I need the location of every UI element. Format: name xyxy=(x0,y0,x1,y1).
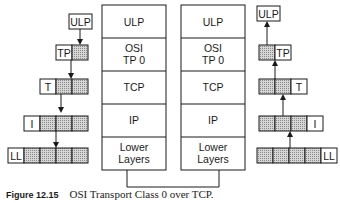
layer-osi-right: OSI xyxy=(204,42,222,54)
layer-ulp-right: ULP xyxy=(203,16,223,28)
svg-text:I: I xyxy=(314,118,317,130)
i-pdu-left: I xyxy=(24,116,88,131)
t-pdu-left: T xyxy=(40,79,88,94)
svg-text:LL: LL xyxy=(323,150,335,162)
layer-lower-left: Lower xyxy=(120,141,149,153)
i-pdu-right: I xyxy=(259,116,323,131)
ulp-header-right: ULP xyxy=(257,6,280,21)
svg-text:TP: TP xyxy=(276,47,289,59)
layer-ip-left: IP xyxy=(129,114,139,126)
tp-pdu-right: TP xyxy=(259,45,291,60)
figure-label: Figure 12.15 xyxy=(6,190,59,200)
svg-text:TP 0: TP 0 xyxy=(123,54,145,66)
svg-text:Layers: Layers xyxy=(197,153,229,165)
layer-ip-right: IP xyxy=(208,114,218,126)
figure-caption-text: OSI Transport Class 0 over TCP. xyxy=(69,188,213,200)
tp-pdu-left: TP xyxy=(56,45,88,60)
decapsulation-diagram: ULP TP T I LL xyxy=(257,6,337,163)
physical-link xyxy=(127,170,219,187)
ll-frame-left: LL xyxy=(8,148,88,163)
svg-text:ULP: ULP xyxy=(70,16,90,28)
t-pdu-right: T xyxy=(259,79,307,94)
svg-text:I: I xyxy=(31,118,34,130)
svg-text:ULP: ULP xyxy=(258,8,278,20)
svg-text:T: T xyxy=(296,81,303,93)
svg-text:T: T xyxy=(45,81,52,93)
svg-text:Layers: Layers xyxy=(118,153,150,165)
svg-text:LL: LL xyxy=(10,150,22,162)
layer-osi-left: OSI xyxy=(125,42,143,54)
layer-ulp-left: ULP xyxy=(124,16,144,28)
protocol-stack-left: ULP OSI TP 0 TCP IP Lower Layers xyxy=(102,5,166,170)
ulp-header-left: ULP xyxy=(69,14,92,29)
figure-caption: Figure 12.15 OSI Transport Class 0 over … xyxy=(6,188,214,200)
layer-lower-right: Lower xyxy=(199,141,228,153)
encapsulation-diagram: ULP TP T I LL xyxy=(8,14,92,163)
svg-text:TP: TP xyxy=(57,47,70,59)
protocol-stack-right: ULP OSI TP 0 TCP IP Lower Layers xyxy=(181,5,245,170)
ll-frame-right: LL xyxy=(257,148,337,163)
svg-text:TP 0: TP 0 xyxy=(202,54,224,66)
diagram-canvas: ULP TP T I LL xyxy=(0,0,340,203)
layer-tcp-right: TCP xyxy=(203,81,224,93)
layer-tcp-left: TCP xyxy=(124,81,145,93)
